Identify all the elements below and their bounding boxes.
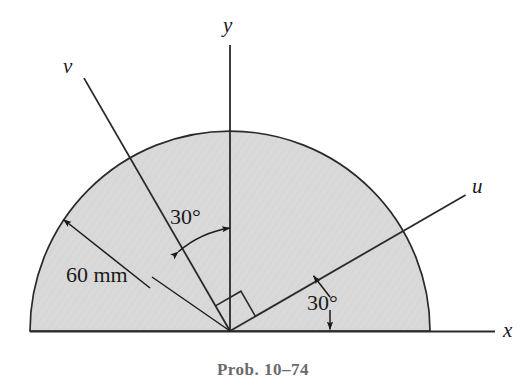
- radius-dimension-label: 60 mm: [66, 264, 128, 286]
- engineering-diagram: [0, 0, 526, 391]
- angle-label-v-y: 30°: [170, 206, 201, 228]
- v-axis-label: v: [63, 56, 72, 77]
- y-axis-label: y: [223, 15, 232, 36]
- figure-page: x y u v 30° 30° 60 mm Prob. 10–74: [0, 0, 526, 391]
- figure-caption: Prob. 10–74: [0, 360, 526, 380]
- x-axis-label: x: [503, 320, 512, 341]
- u-axis-label: u: [472, 176, 483, 197]
- angle-label-u-x: 30°: [307, 292, 338, 314]
